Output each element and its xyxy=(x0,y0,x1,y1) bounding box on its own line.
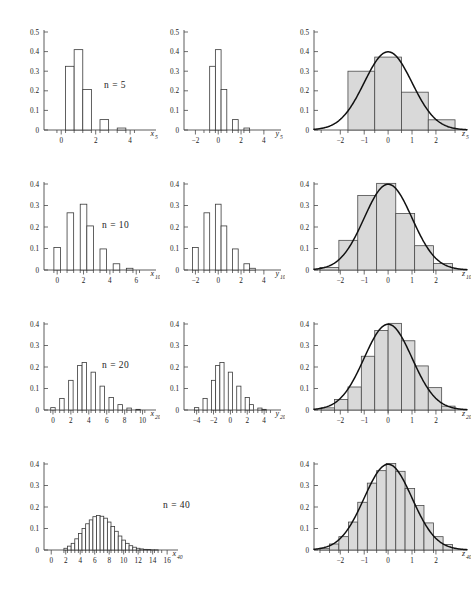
svg-text:6: 6 xyxy=(93,557,97,565)
svg-text:2: 2 xyxy=(434,417,438,425)
row-label-n5-prefix: n xyxy=(104,80,109,90)
svg-text:0.1: 0.1 xyxy=(170,385,179,393)
chart-z40: 00.10.20.30.4−2−1012z40 xyxy=(280,442,471,582)
svg-text:0.3: 0.3 xyxy=(170,342,179,350)
svg-text:0: 0 xyxy=(35,127,39,135)
svg-text:0.3: 0.3 xyxy=(300,68,309,76)
svg-text:0.2: 0.2 xyxy=(30,224,39,232)
svg-text:0.4: 0.4 xyxy=(300,48,309,56)
chart-x5: 00.10.20.30.40.5024x5 xyxy=(10,22,160,162)
svg-text:−2: −2 xyxy=(336,417,344,425)
svg-text:16: 16 xyxy=(164,557,172,565)
svg-text:10: 10 xyxy=(466,274,471,280)
svg-text:0.1: 0.1 xyxy=(30,245,39,253)
svg-text:5: 5 xyxy=(466,134,469,140)
svg-text:−1: −1 xyxy=(360,557,368,565)
svg-text:0.3: 0.3 xyxy=(300,342,309,350)
svg-text:−2: −2 xyxy=(192,277,200,285)
svg-text:0.4: 0.4 xyxy=(30,461,39,469)
svg-text:0.4: 0.4 xyxy=(170,181,179,189)
chart-y20: 00.10.20.30.4−4−2024y20 xyxy=(150,302,285,442)
svg-text:1: 1 xyxy=(410,557,414,565)
svg-text:0.4: 0.4 xyxy=(170,48,179,56)
svg-text:0: 0 xyxy=(51,417,55,425)
svg-text:0.3: 0.3 xyxy=(30,202,39,210)
svg-text:0.4: 0.4 xyxy=(30,48,39,56)
svg-text:0.2: 0.2 xyxy=(170,87,179,95)
svg-text:4: 4 xyxy=(78,557,82,565)
plot-cell-z20: 00.10.20.30.4−2−1012z20 xyxy=(280,302,471,442)
svg-text:0: 0 xyxy=(386,137,390,145)
row-label-n20: n = 20 xyxy=(102,360,129,370)
svg-text:0: 0 xyxy=(49,557,53,565)
chart-x10: 00.10.20.30.40246x10 xyxy=(10,162,160,302)
svg-text:0.5: 0.5 xyxy=(170,29,179,37)
svg-text:10: 10 xyxy=(120,557,128,565)
chart-x20: 00.10.20.30.40246810x20 xyxy=(10,302,160,442)
svg-text:−2: −2 xyxy=(210,417,218,425)
svg-text:1: 1 xyxy=(410,137,414,145)
plot-row-n5: 00.10.20.30.40.5024x5 n = 5 00.10.20.30.… xyxy=(0,22,471,162)
chart-z20: 00.10.20.30.4−2−1012z20 xyxy=(280,302,471,442)
svg-text:0: 0 xyxy=(216,277,220,285)
clt-histogram-figure: 00.10.20.30.40.5024x5 n = 5 00.10.20.30.… xyxy=(0,0,471,594)
svg-text:2: 2 xyxy=(434,277,438,285)
svg-text:40: 40 xyxy=(466,554,471,560)
svg-text:4: 4 xyxy=(262,137,266,145)
chart-z5: 00.10.20.30.40.5−2−1012z5 xyxy=(280,22,471,162)
svg-text:0.4: 0.4 xyxy=(170,321,179,329)
svg-text:0: 0 xyxy=(35,547,39,555)
svg-text:2: 2 xyxy=(239,277,243,285)
svg-text:40: 40 xyxy=(177,554,183,560)
svg-text:−2: −2 xyxy=(336,557,344,565)
svg-text:0: 0 xyxy=(305,547,309,555)
row-label-n10-eq: = xyxy=(110,220,116,230)
svg-text:8: 8 xyxy=(107,557,111,565)
svg-text:−1: −1 xyxy=(360,417,368,425)
plot-row-n10: 00.10.20.30.40246x10 n = 10 00.10.20.30.… xyxy=(0,162,471,302)
svg-text:20: 20 xyxy=(466,414,471,420)
svg-text:0.4: 0.4 xyxy=(30,321,39,329)
svg-text:0.4: 0.4 xyxy=(300,321,309,329)
svg-text:x: x xyxy=(171,549,176,558)
svg-text:2: 2 xyxy=(82,277,86,285)
chart-x40: 00.10.20.30.40246810121416x40 xyxy=(10,442,185,582)
svg-text:0.1: 0.1 xyxy=(170,107,179,115)
row-label-n10-prefix: n xyxy=(102,220,107,230)
row-label-n20-value: 20 xyxy=(119,360,130,370)
row-label-n10: n = 10 xyxy=(102,220,129,230)
svg-text:0.3: 0.3 xyxy=(170,68,179,76)
svg-text:0: 0 xyxy=(305,407,309,415)
svg-text:−2: −2 xyxy=(336,277,344,285)
svg-text:0: 0 xyxy=(35,267,39,275)
svg-text:0.2: 0.2 xyxy=(30,504,39,512)
row-label-n40-prefix: n xyxy=(163,500,168,510)
plot-cell-z40: 00.10.20.30.4−2−1012z40 xyxy=(280,442,471,582)
svg-text:0.4: 0.4 xyxy=(300,181,309,189)
svg-text:0: 0 xyxy=(386,277,390,285)
svg-text:−1: −1 xyxy=(360,137,368,145)
svg-text:0: 0 xyxy=(216,137,220,145)
svg-text:4: 4 xyxy=(262,417,266,425)
svg-text:0.1: 0.1 xyxy=(30,525,39,533)
svg-text:0: 0 xyxy=(35,407,39,415)
plot-cell-y5: 00.10.20.30.40.5−2024y5 xyxy=(150,22,285,162)
svg-text:4: 4 xyxy=(87,417,91,425)
row-label-n40: n = 40 xyxy=(163,500,190,510)
svg-text:6: 6 xyxy=(134,277,138,285)
chart-y5: 00.10.20.30.40.5−2024y5 xyxy=(150,22,285,162)
plot-cell-x5: 00.10.20.30.40.5024x5 xyxy=(10,22,160,162)
row-label-n5-eq: = xyxy=(112,80,118,90)
svg-text:1: 1 xyxy=(410,417,414,425)
plot-row-n40: 00.10.20.30.40246810121416x40 n = 40 00.… xyxy=(0,442,471,582)
svg-text:y: y xyxy=(274,269,279,278)
svg-text:0.3: 0.3 xyxy=(30,482,39,490)
plot-cell-y20: 00.10.20.30.4−4−2024y20 xyxy=(150,302,285,442)
svg-text:14: 14 xyxy=(149,557,157,565)
svg-text:0.3: 0.3 xyxy=(30,342,39,350)
svg-text:0.2: 0.2 xyxy=(30,364,39,372)
svg-text:0.2: 0.2 xyxy=(300,224,309,232)
svg-text:0: 0 xyxy=(55,277,59,285)
row-label-n40-eq: = xyxy=(171,500,177,510)
svg-text:y: y xyxy=(274,409,279,418)
